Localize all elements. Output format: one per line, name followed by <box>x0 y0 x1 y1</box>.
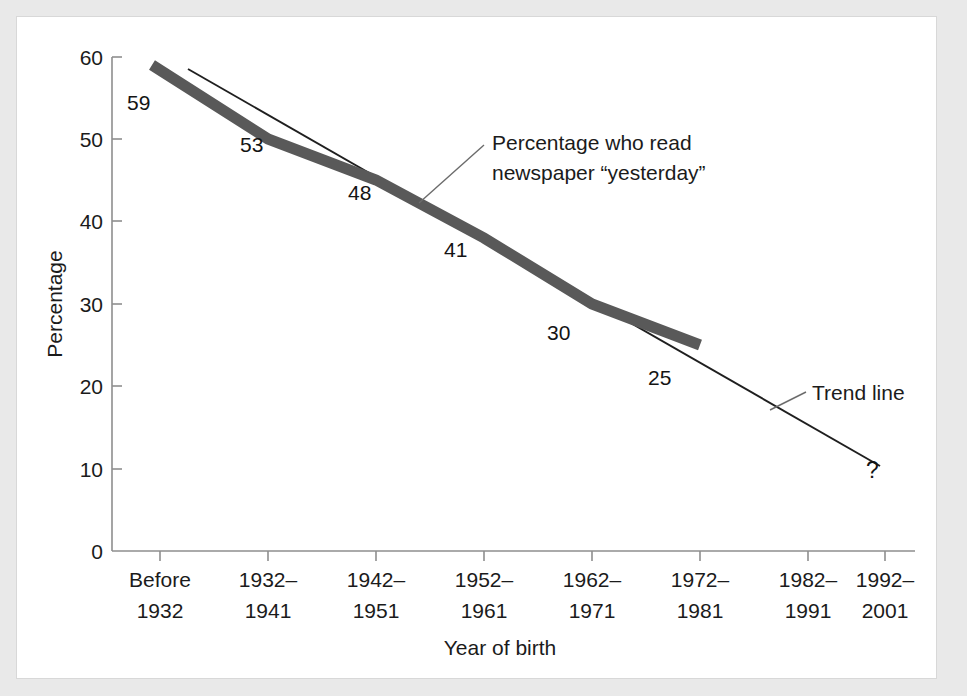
y-tick-label-30: 30 <box>80 293 103 316</box>
data-label-53: 53 <box>240 133 263 156</box>
trend-callout-leader <box>770 392 806 410</box>
y-tick-label-40: 40 <box>80 210 103 233</box>
x-tick-label-5-top: 1972– <box>671 568 730 591</box>
x-tick-labels: Before 1932 1932– 1941 1942– 1951 1952– … <box>129 568 914 622</box>
x-tick-label-7-top: 1992– <box>856 568 915 591</box>
data-label-25: 25 <box>648 366 671 389</box>
x-tick-label-5-bottom: 1981 <box>677 599 724 622</box>
data-label-30: 30 <box>547 321 570 344</box>
series-callout-line2: newspaper “yesterday” <box>492 161 706 184</box>
y-tick-label-20: 20 <box>80 375 103 398</box>
data-label-41: 41 <box>444 238 467 261</box>
trend-callout-label: Trend line <box>812 381 905 404</box>
x-tick-marks <box>160 551 885 561</box>
y-tick-labels: 60 50 40 30 20 10 0 <box>80 46 103 563</box>
y-tick-label-10: 10 <box>80 458 103 481</box>
trend-callout: Trend line <box>770 381 905 410</box>
x-tick-label-2-top: 1942– <box>347 568 406 591</box>
trend-endpoint-question-mark: ? <box>866 457 879 483</box>
series-callout-line1: Percentage who read <box>492 131 692 154</box>
y-axis-title: Percentage <box>43 250 66 357</box>
figure-root: 60 50 40 30 20 10 0 Percentage Before 19… <box>0 0 967 696</box>
x-tick-label-0-bottom: 1932 <box>137 599 184 622</box>
x-tick-label-7-bottom: 2001 <box>862 599 909 622</box>
series-thick-band <box>152 65 700 345</box>
x-tick-label-4-top: 1962– <box>563 568 622 591</box>
x-tick-label-0-top: Before <box>129 568 191 591</box>
y-tick-label-0: 0 <box>91 540 103 563</box>
x-axis-title: Year of birth <box>444 636 556 659</box>
x-tick-label-4-bottom: 1971 <box>569 599 616 622</box>
y-tick-label-60: 60 <box>80 46 103 69</box>
x-tick-label-1-bottom: 1941 <box>245 599 292 622</box>
x-tick-label-2-bottom: 1951 <box>353 599 400 622</box>
y-tick-label-50: 50 <box>80 128 103 151</box>
x-tick-label-6-top: 1982– <box>779 568 838 591</box>
y-tick-marks <box>112 57 122 469</box>
x-tick-label-1-top: 1932– <box>239 568 298 591</box>
x-tick-label-6-bottom: 1991 <box>785 599 832 622</box>
series-callout-leader <box>419 145 484 203</box>
x-tick-label-3-top: 1952– <box>455 568 514 591</box>
series-callout: Percentage who read newspaper “yesterday… <box>419 131 706 203</box>
x-tick-label-3-bottom: 1961 <box>461 599 508 622</box>
data-label-48: 48 <box>348 181 371 204</box>
data-label-59: 59 <box>127 91 150 114</box>
newspaper-readership-chart: 60 50 40 30 20 10 0 Percentage Before 19… <box>0 0 967 696</box>
